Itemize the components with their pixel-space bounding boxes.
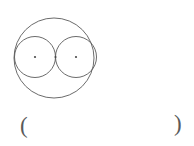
left-center-dot <box>34 56 36 58</box>
open-parenthesis: ( <box>20 114 28 137</box>
right-center-dot <box>75 56 77 58</box>
outer-circle <box>14 18 94 98</box>
figure-canvas: ( ) <box>0 0 194 146</box>
close-parenthesis: ) <box>174 112 182 135</box>
geometric-figure <box>0 0 194 146</box>
tangent-point-dot <box>54 56 56 58</box>
